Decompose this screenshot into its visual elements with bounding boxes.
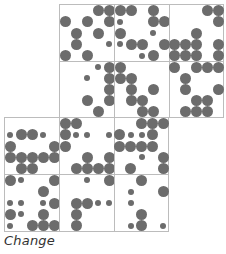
large-dot — [202, 95, 213, 106]
large-dot — [16, 152, 27, 163]
large-dot — [202, 62, 213, 73]
small-dot — [128, 200, 134, 206]
large-dot — [147, 141, 158, 152]
large-dot — [93, 163, 104, 174]
small-dot — [73, 132, 79, 138]
large-dot — [115, 73, 126, 84]
small-dot — [139, 53, 145, 59]
large-dot — [147, 129, 158, 140]
large-dot — [82, 95, 93, 106]
small-dot — [18, 200, 24, 206]
large-dot — [82, 163, 93, 174]
large-dot — [38, 220, 49, 231]
large-dot — [213, 50, 224, 61]
large-dot — [5, 175, 16, 186]
large-dot — [104, 73, 115, 84]
large-dot — [169, 62, 180, 73]
large-dot — [82, 16, 93, 27]
large-dot — [27, 163, 38, 174]
large-dot — [93, 28, 104, 39]
large-dot — [114, 141, 125, 152]
small-dot — [160, 223, 166, 229]
large-dot — [104, 5, 115, 16]
large-dot — [126, 39, 137, 50]
small-dot — [128, 223, 134, 229]
large-dot — [115, 5, 126, 16]
large-dot — [115, 28, 126, 39]
large-dot — [158, 152, 169, 163]
large-dot — [137, 39, 148, 50]
large-dot — [126, 5, 137, 16]
large-dot — [82, 152, 93, 163]
large-dot — [71, 209, 82, 220]
large-dot — [191, 28, 202, 39]
large-dot — [136, 141, 147, 152]
large-dot — [5, 141, 16, 152]
large-dot — [27, 129, 38, 140]
small-dot — [139, 132, 145, 138]
large-dot — [16, 163, 27, 174]
large-dot — [71, 118, 82, 129]
caption-label: Change — [4, 233, 55, 248]
large-dot — [213, 16, 224, 27]
large-dot — [148, 5, 159, 16]
large-dot — [38, 152, 49, 163]
small-dot — [95, 200, 101, 206]
large-dot — [60, 129, 71, 140]
large-dot — [137, 106, 148, 117]
large-dot — [104, 152, 115, 163]
small-dot — [150, 30, 156, 36]
large-dot — [213, 39, 224, 50]
large-dot — [136, 175, 147, 186]
large-dot — [60, 118, 71, 129]
large-dot — [49, 175, 60, 186]
large-dot — [60, 50, 71, 61]
large-dot — [213, 84, 224, 95]
large-dot — [148, 106, 159, 117]
large-dot — [60, 141, 71, 152]
small-dot — [40, 132, 46, 138]
large-dot — [126, 95, 137, 106]
large-dot — [148, 84, 159, 95]
large-dot — [180, 73, 191, 84]
large-dot — [104, 62, 115, 73]
small-dot — [117, 19, 123, 25]
large-dot — [213, 5, 224, 16]
large-dot — [93, 5, 104, 16]
small-dot — [128, 132, 134, 138]
large-dot — [60, 16, 71, 27]
small-dot — [139, 154, 145, 160]
large-dot — [191, 62, 202, 73]
large-dot — [159, 16, 170, 27]
small-dot — [84, 132, 90, 138]
large-dot — [136, 209, 147, 220]
large-dot — [148, 16, 159, 27]
large-dot — [104, 84, 115, 95]
small-dot — [7, 132, 13, 138]
small-dot — [7, 223, 13, 229]
small-dot — [106, 132, 112, 138]
large-dot — [93, 106, 104, 117]
large-dot — [125, 141, 136, 152]
large-dot — [104, 16, 115, 27]
large-dot — [38, 186, 49, 197]
large-dot — [82, 50, 93, 61]
large-dot — [104, 163, 115, 174]
large-dot — [136, 118, 147, 129]
large-dot — [27, 152, 38, 163]
large-dot — [137, 95, 148, 106]
large-dot — [148, 50, 159, 61]
large-dot — [202, 5, 213, 16]
large-dot — [180, 39, 191, 50]
large-dot — [71, 163, 82, 174]
large-dot — [159, 39, 170, 50]
large-dot — [126, 84, 137, 95]
small-dot — [106, 200, 112, 206]
large-dot — [49, 198, 60, 209]
large-dot — [82, 198, 93, 209]
large-dot — [5, 152, 16, 163]
large-dot — [126, 73, 137, 84]
large-dot — [158, 163, 169, 174]
large-dot — [71, 39, 82, 50]
large-dot — [158, 118, 169, 129]
